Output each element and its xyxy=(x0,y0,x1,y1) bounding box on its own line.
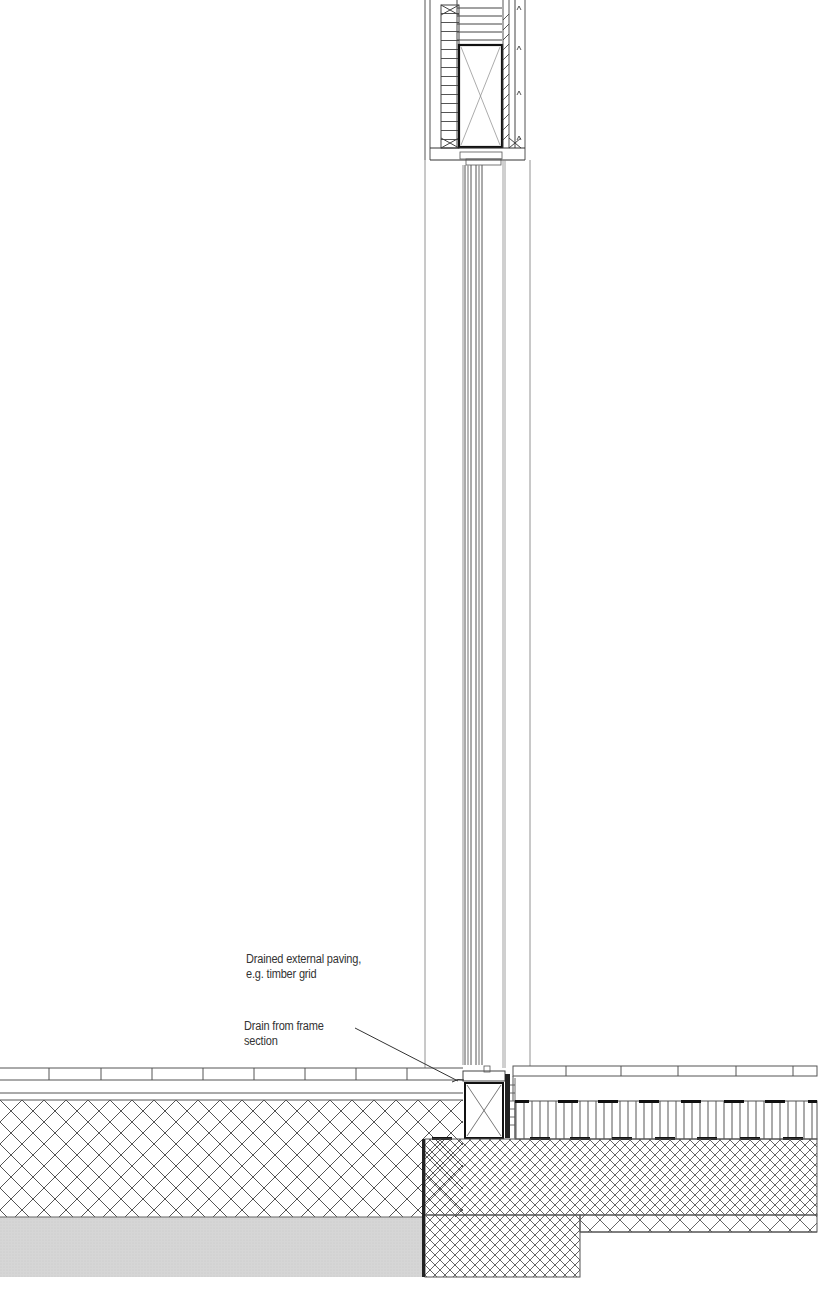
annotation-drain-line-2: section xyxy=(244,1034,324,1049)
ground-fill xyxy=(0,1217,422,1277)
annotation-paving-line-1: Drained external paving, xyxy=(246,952,361,967)
annotation-paving: Drained external paving, e.g. timber gri… xyxy=(246,952,361,982)
head-assembly xyxy=(425,0,525,165)
annotation-drain: Drain from frame section xyxy=(244,1019,324,1049)
annotation-paving-line-2: e.g. timber grid xyxy=(246,967,361,982)
external-paving xyxy=(0,1068,463,1100)
annotation-drain-line-1: Drain from frame xyxy=(244,1019,324,1034)
section-drawing xyxy=(0,0,839,1294)
concrete-slab xyxy=(422,1139,817,1277)
glazing-unit xyxy=(425,160,530,1068)
internal-floor-finish xyxy=(513,1066,817,1101)
external-sub-base xyxy=(0,1100,463,1217)
